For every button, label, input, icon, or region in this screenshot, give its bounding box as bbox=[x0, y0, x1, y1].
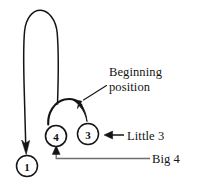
little-3-label: Little 3 bbox=[127, 129, 164, 143]
node-4-label: 4 bbox=[53, 131, 59, 143]
little-3-arrowhead bbox=[104, 131, 113, 139]
stroke-diagram: 1 4 3 Beginning position Little 3 Big 4 bbox=[0, 0, 197, 187]
small-arc-tail bbox=[79, 103, 87, 121]
beginning-position-leader-line bbox=[84, 86, 107, 101]
big-4-label: Big 4 bbox=[152, 152, 180, 166]
big-4-leader bbox=[52, 146, 150, 159]
beginning-position-line-2: position bbox=[109, 80, 162, 95]
big-4-leader-line bbox=[56, 154, 150, 159]
node-1-label: 1 bbox=[24, 161, 30, 173]
node-3: 3 bbox=[78, 124, 99, 145]
beginning-position-leader bbox=[84, 86, 107, 101]
beginning-position-label: Beginning position bbox=[109, 65, 162, 94]
stroke-small-arc bbox=[48, 99, 87, 124]
node-4: 4 bbox=[46, 126, 67, 147]
node-1: 1 bbox=[17, 156, 38, 177]
little-3-leader bbox=[104, 131, 124, 139]
node-3-label: 3 bbox=[85, 129, 91, 141]
beginning-position-line-1: Beginning bbox=[109, 65, 162, 80]
